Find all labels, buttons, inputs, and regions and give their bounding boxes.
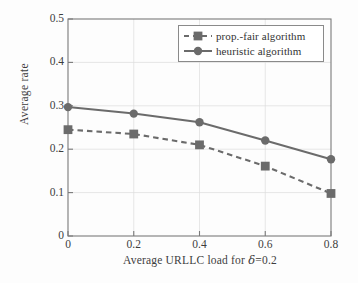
series-prop-fair-marker xyxy=(129,130,138,139)
series-prop-fair-marker xyxy=(327,189,336,198)
x-axis-ticks xyxy=(68,231,331,236)
series-heuristic-marker xyxy=(327,155,335,163)
legend-swatch-solid-circle-icon xyxy=(183,44,213,58)
series-heuristic-marker xyxy=(261,136,269,144)
legend-label-heuristic: heuristic algorithm xyxy=(213,45,301,57)
legend-item-prop-fair: prop.-fair algorithm xyxy=(179,28,323,43)
series-heuristic-marker xyxy=(195,118,203,126)
series-heuristic-marker xyxy=(64,103,72,111)
chart-figure: Average rate Average URLLC load for δ=0.… xyxy=(0,0,358,283)
legend-label-prop-fair: prop.-fair algorithm xyxy=(213,30,305,42)
legend-swatch-dashed-square-icon xyxy=(183,29,213,43)
series-prop-fair-marker xyxy=(64,125,73,134)
series-prop-fair-marker xyxy=(195,140,204,149)
series-prop-fair-marker xyxy=(261,162,270,171)
series-heuristic-marker xyxy=(130,109,138,117)
chart-legend: prop.-fair algorithm heuristic algorithm xyxy=(178,25,324,62)
legend-item-heuristic: heuristic algorithm xyxy=(179,43,323,58)
